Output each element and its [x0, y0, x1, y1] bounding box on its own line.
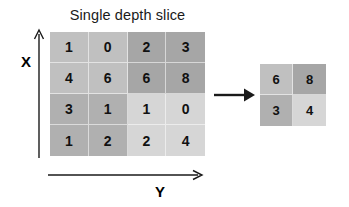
input-cell: 2 [128, 32, 167, 63]
input-cell: 0 [166, 94, 205, 125]
input-cell: 4 [50, 63, 89, 94]
input-cell: 3 [166, 32, 205, 63]
arrow-up-icon [30, 26, 48, 160]
input-cell: 4 [166, 125, 205, 156]
input-cell: 2 [128, 125, 167, 156]
input-cell: 1 [50, 32, 89, 63]
arrow-right-icon [212, 84, 256, 106]
input-cell: 6 [128, 63, 167, 94]
y-axis-label: Y [155, 183, 165, 200]
page-title: Single depth slice [50, 7, 205, 23]
output-cell: 6 [260, 64, 293, 95]
input-cell: 8 [166, 63, 205, 94]
input-cell: 2 [89, 125, 128, 156]
input-feature-map-grid: 1 0 2 3 4 6 6 8 3 1 1 0 1 2 2 4 [50, 32, 205, 156]
input-cell: 3 [50, 94, 89, 125]
input-cell: 1 [89, 94, 128, 125]
input-cell: 6 [89, 63, 128, 94]
input-cell: 1 [128, 94, 167, 125]
output-cell: 8 [293, 64, 326, 95]
output-pooled-grid: 6 8 3 4 [260, 64, 326, 126]
input-cell: 0 [89, 32, 128, 63]
arrow-right-icon [46, 166, 206, 184]
input-cell: 1 [50, 125, 89, 156]
output-cell: 4 [293, 95, 326, 126]
max-pooling-diagram: Single depth slice X Y 1 0 2 3 4 6 6 8 3… [0, 0, 349, 207]
output-cell: 3 [260, 95, 293, 126]
